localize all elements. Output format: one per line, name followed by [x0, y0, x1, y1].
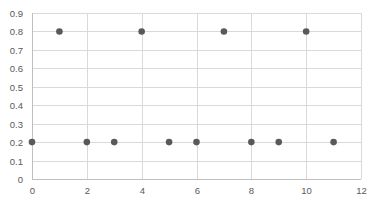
data-series [29, 28, 337, 145]
data-point-marker [303, 28, 310, 35]
y-tick-label: 0.8 [10, 26, 23, 37]
y-tick-label: 0.2 [10, 137, 23, 148]
y-tick-label: 0.7 [10, 45, 23, 56]
y-tick-label: 0.6 [10, 63, 23, 74]
data-point-marker [330, 139, 337, 146]
data-point-marker [166, 139, 173, 146]
x-tick-label: 10 [301, 185, 312, 196]
y-tick-label: 0.3 [10, 119, 23, 130]
x-tick-label: 6 [195, 185, 200, 196]
data-point-marker [56, 28, 63, 35]
x-tick-label: 0 [30, 185, 35, 196]
y-tick-label: 0.9 [10, 8, 23, 19]
x-tick-label: 12 [356, 185, 367, 196]
data-point-marker [221, 28, 228, 35]
data-point-marker [111, 139, 118, 146]
data-point-marker [193, 139, 200, 146]
x-tick-label: 8 [249, 185, 254, 196]
y-tick-label: 0 [18, 174, 23, 185]
scatter-chart: 00.10.20.30.40.50.60.70.80.9 024681012 [0, 0, 372, 207]
x-axis-tick-labels: 024681012 [30, 185, 367, 196]
x-tick-label: 2 [85, 185, 90, 196]
data-point-marker [138, 28, 145, 35]
y-axis-tick-labels: 00.10.20.30.40.50.60.70.80.9 [10, 8, 23, 185]
x-tick-label: 4 [140, 185, 145, 196]
y-tick-label: 0.5 [10, 82, 23, 93]
data-point-marker [275, 139, 282, 146]
data-point-marker [84, 139, 91, 146]
gridlines [32, 13, 362, 180]
data-point-marker [248, 139, 255, 146]
data-point-marker [29, 139, 36, 146]
y-tick-label: 0.1 [10, 156, 23, 167]
y-tick-label: 0.4 [10, 100, 23, 111]
